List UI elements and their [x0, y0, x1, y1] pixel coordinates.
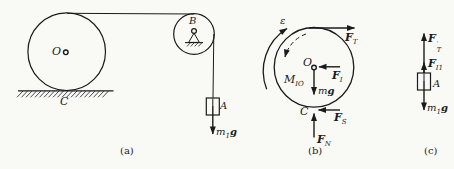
- rope-vertical: [213, 34, 214, 98]
- caption-b: (b): [308, 146, 322, 156]
- label-moment-mio: MIO: [284, 74, 304, 85]
- rope-top: [67, 13, 194, 14]
- caption-a: (a): [120, 146, 134, 156]
- label-force-ft: FT: [345, 32, 357, 43]
- pulley-support-hatching: [187, 43, 202, 47]
- cylinder-axle-dot: [64, 50, 69, 55]
- label-force-fs: FS: [334, 112, 347, 123]
- label-pulley-b: B: [189, 16, 196, 26]
- mechanics-figure: O B C A m1g (a) ε FT O FI MIO mg C FS FN…: [0, 0, 454, 169]
- label-force-fn: FN: [317, 134, 331, 145]
- label-contact-c-b: C: [300, 106, 308, 117]
- wheel-center-dot: [312, 65, 317, 70]
- label-force-fi1: FI1: [428, 58, 443, 69]
- label-block-a-fbd: A: [433, 79, 440, 89]
- diagram-line-art: [0, 0, 454, 169]
- label-force-fi: FI: [332, 70, 343, 81]
- label-block-a: A: [220, 101, 227, 111]
- label-contact-c-a: C: [60, 96, 68, 107]
- label-weight-m1g-a: m1g: [216, 127, 237, 137]
- fig-a-art: [17, 13, 219, 134]
- label-weight-mg: mg: [318, 86, 334, 96]
- label-force-ft-prime: F′T: [428, 33, 441, 53]
- pulley-pin-triangle: [189, 33, 200, 42]
- label-center-o-a: O: [52, 46, 61, 57]
- caption-c: (c): [424, 146, 437, 156]
- label-epsilon: ε: [280, 16, 285, 26]
- label-weight-m1g-c: m1g: [427, 103, 448, 113]
- label-center-o-b: O: [303, 57, 312, 68]
